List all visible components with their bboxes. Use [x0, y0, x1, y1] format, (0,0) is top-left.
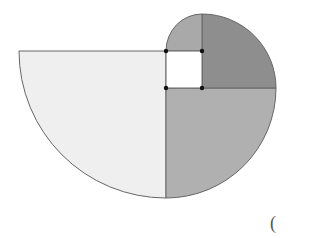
spiral-diagram [0, 0, 321, 238]
large-light-region [19, 51, 166, 198]
vertex-dot [200, 49, 204, 53]
paren-mark: ( [270, 214, 276, 232]
white-square [166, 51, 202, 88]
top-right-region [202, 14, 276, 88]
bottom-right-region [166, 88, 276, 198]
vertex-dot [200, 86, 204, 90]
vertex-dot [164, 49, 168, 53]
vertex-dot [164, 86, 168, 90]
top-left-region [166, 14, 202, 51]
